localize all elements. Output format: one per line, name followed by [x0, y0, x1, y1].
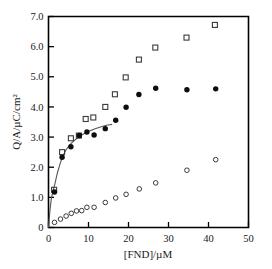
y-tick-label: 2.0	[30, 162, 43, 173]
y-tick-label: 1.0	[30, 192, 43, 203]
chart-figure: 01.02.03.04.05.06.07.0 01020304050 Q/A/µ…	[0, 0, 272, 269]
data-point-filled-circle	[68, 144, 73, 149]
y-tick-label: 5.0	[30, 71, 43, 82]
y-axis-title: Q/A/µC/cm²	[10, 94, 22, 150]
x-tick-label: 50	[243, 233, 254, 244]
x-tick-label: 40	[203, 233, 214, 244]
x-tick-label: 20	[123, 233, 134, 244]
data-point-filled-circle	[77, 133, 82, 138]
data-point-filled-circle	[213, 86, 218, 91]
x-axis-title: [FND]/µM	[124, 248, 173, 260]
data-point-filled-circle	[91, 132, 96, 137]
data-point-filled-circle	[103, 126, 108, 131]
y-tick-label: 7.0	[30, 11, 43, 22]
data-point-filled-circle	[84, 129, 89, 134]
y-tick-label: 0	[38, 222, 43, 233]
data-point-filled-circle	[52, 189, 57, 194]
data-point-filled-circle	[153, 86, 158, 91]
svg-text:Q/A/µC/cm²: Q/A/µC/cm²	[10, 94, 22, 150]
data-point-filled-circle	[136, 92, 141, 97]
y-tick-label: 3.0	[30, 132, 43, 143]
scatter-plot: 01.02.03.04.05.06.07.0 01020304050 Q/A/µ…	[0, 0, 272, 269]
x-tick-label: 10	[83, 233, 94, 244]
data-point-filled-circle	[113, 117, 118, 122]
data-point-filled-circle	[59, 155, 64, 160]
y-tick-label: 4.0	[30, 102, 43, 113]
data-point-filled-circle	[123, 105, 128, 110]
data-point-filled-circle	[184, 87, 189, 92]
y-tick-label: 6.0	[30, 41, 43, 52]
x-tick-label: 0	[46, 233, 51, 244]
x-tick-label: 30	[163, 233, 174, 244]
